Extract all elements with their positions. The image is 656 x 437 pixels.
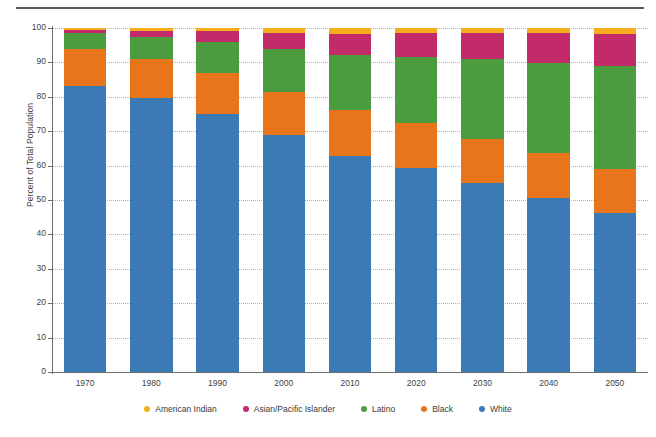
bar-segment[interactable]	[263, 49, 305, 92]
bar-segment[interactable]	[461, 59, 503, 139]
x-axis-tick-label: 2010	[317, 378, 383, 388]
legend-label: Black	[432, 404, 453, 414]
bar-segment[interactable]	[329, 156, 371, 372]
bar-segment[interactable]	[196, 42, 238, 73]
bar-segment[interactable]	[527, 33, 569, 63]
bar-segment[interactable]	[395, 168, 437, 372]
legend-swatch-icon	[144, 406, 150, 412]
bar-segment[interactable]	[329, 34, 371, 55]
bar-segment[interactable]	[395, 57, 437, 123]
bar-segment[interactable]	[130, 37, 172, 59]
y-axis-tick-label: 60	[18, 160, 46, 170]
legend-item[interactable]: Asian/Pacific Islander	[243, 404, 335, 414]
bars-layer	[52, 28, 648, 372]
legend-label: White	[490, 404, 512, 414]
legend-swatch-icon	[243, 406, 249, 412]
y-axis-tick-label: 0	[18, 366, 46, 376]
bar-segment[interactable]	[196, 114, 238, 372]
y-axis-tick-label: 80	[18, 91, 46, 101]
plot-area: Percent of Total Population 010203040506…	[0, 0, 656, 400]
legend-swatch-icon	[421, 406, 427, 412]
bar-segment[interactable]	[196, 31, 238, 41]
legend-label: American Indian	[155, 404, 216, 414]
x-axis-tick-label: 1980	[118, 378, 184, 388]
chart-page: Percent of Total Population 010203040506…	[0, 0, 656, 437]
bar-segment[interactable]	[64, 49, 106, 87]
bar-segment[interactable]	[594, 34, 636, 66]
legend-label: Latino	[372, 404, 395, 414]
x-axis-tick-label: 2000	[251, 378, 317, 388]
y-axis-tick-label: 90	[18, 56, 46, 66]
bar-2050[interactable]	[594, 28, 636, 372]
legend-label: Asian/Pacific Islander	[254, 404, 335, 414]
bar-segment[interactable]	[329, 110, 371, 156]
bar-2010[interactable]	[329, 28, 371, 372]
y-axis-tick-label: 30	[18, 263, 46, 273]
x-axis-tick-label: 2030	[449, 378, 515, 388]
y-axis-tick-label: 50	[18, 194, 46, 204]
bar-1970[interactable]	[64, 28, 106, 372]
x-axis-tick-label: 2020	[383, 378, 449, 388]
bar-2040[interactable]	[527, 28, 569, 372]
x-axis-line	[52, 372, 648, 373]
y-axis-tick-label: 70	[18, 125, 46, 135]
bar-1980[interactable]	[130, 28, 172, 372]
legend-item[interactable]: Latino	[361, 404, 395, 414]
bar-segment[interactable]	[329, 55, 371, 110]
y-axis-tick-label: 40	[18, 228, 46, 238]
bar-segment[interactable]	[263, 92, 305, 135]
bar-segment[interactable]	[594, 169, 636, 213]
bar-segment[interactable]	[594, 213, 636, 372]
bar-segment[interactable]	[130, 59, 172, 98]
x-axis-tick-label: 1970	[52, 378, 118, 388]
y-axis-tick-label: 10	[18, 332, 46, 342]
x-axis-tick-label: 2040	[516, 378, 582, 388]
bar-segment[interactable]	[527, 198, 569, 372]
bar-1990[interactable]	[196, 28, 238, 372]
x-axis-tick-label: 2050	[582, 378, 648, 388]
bar-segment[interactable]	[64, 86, 106, 372]
legend-item[interactable]: American Indian	[144, 404, 216, 414]
bar-segment[interactable]	[395, 33, 437, 57]
bar-segment[interactable]	[461, 139, 503, 183]
bar-2030[interactable]	[461, 28, 503, 372]
bar-2020[interactable]	[395, 28, 437, 372]
legend-item[interactable]: White	[479, 404, 512, 414]
bar-segment[interactable]	[594, 66, 636, 169]
legend-swatch-icon	[361, 406, 367, 412]
x-axis-tick-label: 1990	[184, 378, 250, 388]
bar-2000[interactable]	[263, 28, 305, 372]
y-axis-tick-label: 100	[18, 22, 46, 32]
bar-segment[interactable]	[527, 153, 569, 198]
bar-segment[interactable]	[263, 33, 305, 48]
bar-segment[interactable]	[263, 135, 305, 372]
legend-swatch-icon	[479, 406, 485, 412]
bar-segment[interactable]	[196, 73, 238, 114]
y-axis-tick-label: 20	[18, 297, 46, 307]
chart-legend: American IndianAsian/Pacific IslanderLat…	[0, 404, 656, 414]
bar-segment[interactable]	[461, 183, 503, 372]
legend-item[interactable]: Black	[421, 404, 453, 414]
bar-segment[interactable]	[395, 123, 437, 168]
bar-segment[interactable]	[527, 63, 569, 153]
bar-segment[interactable]	[64, 33, 106, 48]
bar-segment[interactable]	[130, 98, 172, 372]
bar-segment[interactable]	[461, 33, 503, 59]
